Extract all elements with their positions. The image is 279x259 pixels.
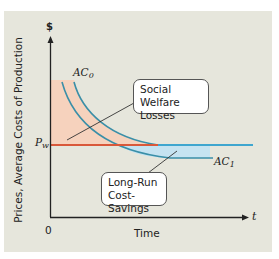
pw-label-sub: w (42, 141, 49, 150)
losses-line-2: Losses (140, 109, 202, 122)
pw-label: Pw (35, 136, 49, 150)
savings-line-2: Cost-Savings (108, 189, 160, 215)
long-run-cost-savings-callout: Long-Run Cost-Savings (101, 172, 167, 206)
ac0-label: AC0 (73, 66, 94, 80)
ac0-label-main: AC (73, 66, 89, 78)
social-welfare-losses-callout: Social Welfare Losses (133, 79, 209, 114)
x-axis-arrow-icon (242, 215, 249, 221)
x-axis-title: Time (134, 227, 160, 239)
ac1-label-sub: 1 (230, 160, 235, 169)
x-axis-symbol: t (252, 210, 256, 223)
ac0-label-sub: 0 (89, 71, 94, 80)
losses-line-1: Social Welfare (140, 83, 202, 109)
savings-line-1: Long-Run (108, 176, 160, 189)
origin-label: 0 (45, 224, 52, 236)
y-axis-title: Prices, Average Costs of Production (12, 37, 24, 223)
y-axis-symbol: $ (46, 21, 53, 32)
ac1-label: AC1 (214, 155, 235, 169)
ac1-label-main: AC (214, 155, 230, 167)
cost-savings-area (120, 145, 210, 158)
chart-svg (0, 0, 279, 259)
y-axis-arrow-icon (48, 36, 54, 43)
